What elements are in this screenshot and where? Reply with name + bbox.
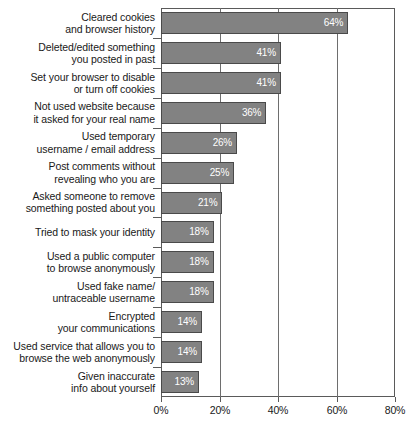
value-tick-label: 20% xyxy=(200,404,240,416)
category-label-line: username / email address xyxy=(37,143,155,155)
bar: 26% xyxy=(161,132,237,154)
category-label-line: to browse anonymously xyxy=(47,262,155,274)
bar: 14% xyxy=(161,341,202,363)
category-tick xyxy=(153,217,161,218)
value-tick-label: 0% xyxy=(141,404,181,416)
bar: 18% xyxy=(161,251,214,273)
category-label-line: something posted about you xyxy=(26,202,155,214)
category-tick xyxy=(153,98,161,99)
bar: 36% xyxy=(161,102,266,124)
bar: 14% xyxy=(161,311,202,333)
bar-row: 21% xyxy=(161,192,395,214)
category-label: Deleted/edited somethingyou posted in pa… xyxy=(0,41,158,66)
category-label: Post comments withoutrevealing who you a… xyxy=(0,160,158,185)
bar: 64% xyxy=(161,12,348,34)
bar: 21% xyxy=(161,192,222,214)
value-tick-60 xyxy=(337,397,338,402)
category-tick xyxy=(153,68,161,69)
category-label-line: and browser history xyxy=(65,23,155,35)
category-label: Used fake name/untraceable username xyxy=(0,280,158,305)
bar-row: 18% xyxy=(161,251,395,273)
bar: 25% xyxy=(161,162,234,184)
bar-row: 14% xyxy=(161,341,395,363)
bar-row: 41% xyxy=(161,42,395,64)
category-label-line: you posted in past xyxy=(72,53,155,65)
value-tick-label: 80% xyxy=(375,404,414,416)
category-tick xyxy=(153,128,161,129)
category-label: Tried to mask your identity xyxy=(0,226,158,238)
category-label-line: Cleared cookies xyxy=(81,11,155,23)
bar-row: 14% xyxy=(161,311,395,333)
value-tick-40 xyxy=(278,397,279,402)
category-tick xyxy=(153,307,161,308)
category-label: Not used website becauseit asked for you… xyxy=(0,100,158,125)
bar-value-label: 13% xyxy=(175,377,194,387)
category-label: Asked someone to removesomething posted … xyxy=(0,190,158,215)
bar-value-label: 41% xyxy=(257,48,276,58)
category-label-line: Set your browser to disable xyxy=(30,71,155,83)
category-label-line: Used temporary xyxy=(82,130,155,142)
category-label-line: Encrypted xyxy=(109,310,155,322)
category-label-line: Deleted/edited something xyxy=(38,41,155,53)
category-label: Encryptedyour communications xyxy=(0,310,158,335)
bar-value-label: 18% xyxy=(189,287,208,297)
value-tick-label: 40% xyxy=(258,404,298,416)
bar-row: 26% xyxy=(161,132,395,154)
bar-row: 18% xyxy=(161,221,395,243)
category-label-line: Post comments without xyxy=(49,160,155,172)
bar-value-label: 64% xyxy=(324,18,343,28)
category-label-line: it asked for your real name xyxy=(33,113,155,125)
bar-row: 41% xyxy=(161,72,395,94)
bar-value-label: 26% xyxy=(213,138,232,148)
value-tick-0 xyxy=(161,397,162,402)
category-label-line: Given inaccurate xyxy=(78,370,155,382)
category-label-line: Used service that allows you to xyxy=(13,340,155,352)
bar: 41% xyxy=(161,42,281,64)
value-tick-80 xyxy=(395,397,396,402)
bar-value-label: 18% xyxy=(189,227,208,237)
category-label: Used a public computerto browse anonymou… xyxy=(0,250,158,275)
category-tick xyxy=(153,38,161,39)
bar-row: 18% xyxy=(161,281,395,303)
category-label-line: info about yourself xyxy=(71,382,155,394)
bar-row: 25% xyxy=(161,162,395,184)
bar: 18% xyxy=(161,221,214,243)
value-tick-20 xyxy=(220,397,221,402)
category-label-line: Used a public computer xyxy=(47,250,155,262)
bar-value-label: 41% xyxy=(257,78,276,88)
value-tick-label: 60% xyxy=(317,404,357,416)
category-tick xyxy=(153,337,161,338)
category-label: Used service that allows you tobrowse th… xyxy=(0,340,158,365)
bar: 13% xyxy=(161,371,199,393)
category-label-line: Tried to mask your identity xyxy=(35,226,155,238)
category-axis-labels: Cleared cookiesand browser historyDelete… xyxy=(0,8,158,397)
bar-row: 36% xyxy=(161,102,395,124)
category-tick xyxy=(153,158,161,159)
bar-value-label: 36% xyxy=(242,108,261,118)
bar-value-label: 18% xyxy=(189,257,208,267)
bar-value-label: 14% xyxy=(178,347,197,357)
plot-area: 64%41%41%36%26%25%21%18%18%18%14%14%13% xyxy=(161,8,395,397)
category-label: Used temporaryusername / email address xyxy=(0,130,158,155)
category-label: Given inaccurateinfo about yourself xyxy=(0,370,158,395)
category-label-line: revealing who you are xyxy=(54,173,155,185)
category-label-line: browse the web anonymously xyxy=(19,352,155,364)
bar: 41% xyxy=(161,72,281,94)
bar-row: 13% xyxy=(161,371,395,393)
category-label-line: Asked someone to remove xyxy=(32,190,155,202)
bar-row: 64% xyxy=(161,12,395,34)
bar: 18% xyxy=(161,281,214,303)
category-tick xyxy=(153,277,161,278)
category-tick xyxy=(153,188,161,189)
category-label: Cleared cookiesand browser history xyxy=(0,11,158,36)
category-label: Set your browser to disableor turn off c… xyxy=(0,71,158,96)
category-tick xyxy=(153,247,161,248)
category-label-line: untraceable username xyxy=(53,292,155,304)
category-label-line: or turn off cookies xyxy=(74,83,155,95)
bar-value-label: 25% xyxy=(210,168,229,178)
category-tick xyxy=(153,367,161,368)
category-label-line: your communications xyxy=(58,322,155,334)
bar-value-label: 21% xyxy=(198,198,217,208)
category-label-line: Not used website because xyxy=(34,100,155,112)
bar-chart: Cleared cookiesand browser historyDelete… xyxy=(0,0,414,436)
